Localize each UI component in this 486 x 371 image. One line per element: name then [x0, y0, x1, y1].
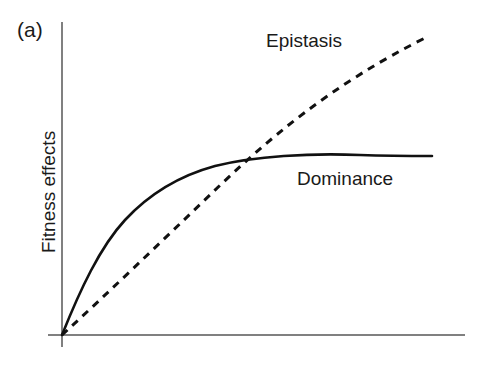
plot-area [0, 0, 486, 371]
series-label-epistasis: Epistasis [266, 30, 342, 52]
series-label-dominance: Dominance [297, 168, 393, 190]
y-axis-label: Fitness effects [38, 131, 60, 253]
panel-label: (a) [17, 18, 43, 42]
figure-panel-a: (a) Fitness effects Epistasis Dominance [0, 0, 486, 371]
